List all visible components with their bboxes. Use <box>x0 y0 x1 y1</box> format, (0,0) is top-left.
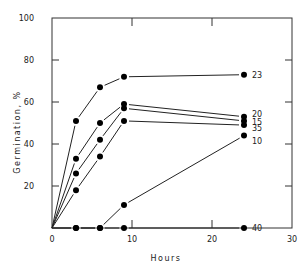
series-segment <box>129 75 239 77</box>
data-point-marker <box>97 154 103 160</box>
x-tick-label: 10 <box>127 235 137 244</box>
data-point-marker <box>241 225 247 231</box>
series-segment <box>52 126 75 228</box>
data-point-marker <box>121 74 127 80</box>
data-point-marker <box>73 118 79 124</box>
data-point-marker <box>73 187 79 193</box>
series-layer: 232015351040 <box>52 71 262 233</box>
data-point-marker <box>73 156 79 162</box>
series-label: 10 <box>252 137 262 146</box>
data-point-marker <box>121 202 127 208</box>
series-segment <box>79 161 97 186</box>
series-segment <box>79 144 97 169</box>
data-point-marker <box>121 118 127 124</box>
data-point-marker <box>73 225 79 231</box>
y-axis-label: Germination, % <box>13 90 22 173</box>
series-segment <box>52 178 74 228</box>
series-label: 35 <box>252 124 262 133</box>
series-segment <box>129 121 239 125</box>
series-35: 35 <box>52 118 262 228</box>
x-tick-label: 30 <box>287 235 297 244</box>
data-point-marker <box>97 84 103 90</box>
y-tick-label: 40 <box>24 140 34 149</box>
series-segment <box>103 125 121 152</box>
data-point-marker <box>241 133 247 139</box>
series-23: 23 <box>52 71 262 228</box>
series-segment <box>52 163 74 228</box>
series-label: 23 <box>252 71 262 80</box>
data-point-marker <box>241 72 247 78</box>
series-segment <box>52 194 73 228</box>
series-segment <box>79 127 97 154</box>
x-tick-label: 20 <box>207 235 217 244</box>
series-40: 40 <box>52 224 262 233</box>
y-tick-label: 100 <box>19 14 34 23</box>
y-tick-label: 80 <box>24 56 34 65</box>
series-label: 40 <box>252 224 262 233</box>
series-15: 15 <box>52 105 262 228</box>
x-tick-label: 0 <box>49 235 54 244</box>
series-segment <box>128 138 239 202</box>
series-segment <box>104 208 121 224</box>
data-point-marker <box>121 105 127 111</box>
y-tick-label: 60 <box>24 98 34 107</box>
series-segment <box>79 91 97 116</box>
data-point-marker <box>97 225 103 231</box>
data-point-marker <box>97 120 103 126</box>
y-tick-label: 20 <box>24 182 34 191</box>
series-segment <box>103 112 121 136</box>
data-point-marker <box>97 137 103 143</box>
data-point-marker <box>121 225 127 231</box>
series-segment <box>104 107 120 120</box>
germination-chart: 204060801000102030 232015351040 Hours Ge… <box>0 0 306 268</box>
data-point-marker <box>241 122 247 128</box>
data-point-marker <box>73 170 79 176</box>
series-segment <box>105 79 120 85</box>
series-20: 20 <box>52 101 262 228</box>
x-axis-label: Hours <box>151 254 182 263</box>
